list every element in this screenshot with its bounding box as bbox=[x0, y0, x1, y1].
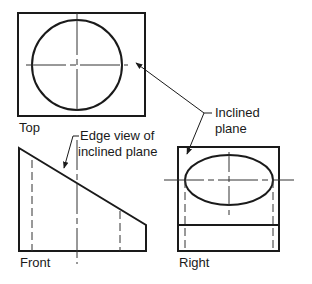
right-view-label: Right bbox=[179, 256, 209, 270]
edge-view-annotation-line1: Edge view of bbox=[80, 129, 154, 143]
front-view-outline bbox=[19, 148, 146, 251]
inclined-plane-annotation-line1: Inclined bbox=[215, 106, 260, 120]
top-view bbox=[18, 13, 145, 116]
inclined-plane-annotation-line2: plane bbox=[215, 122, 247, 136]
front-view-label: Front bbox=[20, 256, 50, 270]
orthographic-drawing bbox=[0, 0, 312, 284]
leader-inclined-plane-to-top bbox=[136, 63, 204, 113]
edge-view-annotation-line2: inclined plane bbox=[78, 145, 158, 159]
right-view bbox=[164, 147, 294, 251]
top-view-label: Top bbox=[19, 121, 40, 135]
